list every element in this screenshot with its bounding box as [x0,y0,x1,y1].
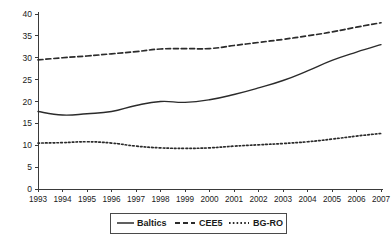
y-tick-label: 20 [23,97,33,107]
legend-label-bg-ro: BG-RO [253,218,283,228]
y-axis: 0510152025303540 [23,9,38,194]
series-line-cee5 [38,23,381,60]
x-tick-label: 2003 [274,195,293,204]
x-axis: 1993199419951996199719981999200020012002… [29,189,391,204]
x-tick-label: 1993 [29,195,48,204]
y-tick-label: 30 [23,53,33,63]
y-tick-label: 5 [27,162,32,172]
y-tick-label: 40 [23,9,33,19]
x-axis-ticks: 1993199419951996199719981999200020012002… [29,189,391,204]
x-tick-label: 2000 [200,195,219,204]
y-tick-label: 35 [23,31,33,41]
x-tick-label: 2004 [298,195,317,204]
x-tick-label: 2006 [347,195,366,204]
x-tick-label: 2007 [372,195,391,204]
y-tick-label: 15 [23,118,33,128]
y-tick-label: 10 [23,140,33,150]
chart-legend: BalticsCEE5BG-RO [110,213,286,233]
x-tick-label: 2001 [225,195,244,204]
y-axis-ticks: 0510152025303540 [23,9,38,194]
x-tick-label: 2002 [249,195,268,204]
x-tick-label: 1996 [102,195,121,204]
x-tick-label: 2005 [323,195,342,204]
y-tick-label: 0 [27,184,32,194]
chart-canvas: 0510152025303540 19931994199519961997199… [0,0,392,243]
x-tick-label: 1998 [151,195,170,204]
line-chart-figure: 0510152025303540 19931994199519961997199… [0,0,392,243]
x-tick-label: 1999 [176,195,195,204]
legend-label-cee5: CEE5 [199,218,223,228]
x-tick-label: 1997 [127,195,146,204]
series-line-bg-ro [38,133,381,148]
x-tick-label: 1994 [53,195,72,204]
x-tick-label: 1995 [78,195,97,204]
legend-label-baltics: Baltics [137,218,167,228]
series-layer [38,23,381,149]
y-tick-label: 25 [23,75,33,85]
